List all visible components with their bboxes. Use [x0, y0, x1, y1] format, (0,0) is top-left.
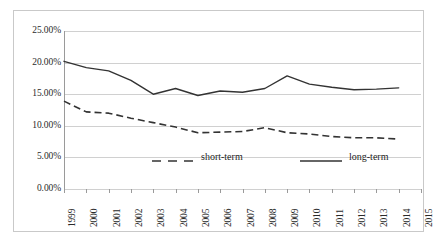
- y-axis-tick-label: 5.00%: [15, 152, 61, 162]
- x-axis-tick: [243, 189, 244, 193]
- chart-figure: 0.00%5.00%10.00%15.00%20.00%25.00% short…: [13, 10, 424, 232]
- x-axis-tick: [176, 189, 177, 193]
- legend-label: long-term: [349, 152, 388, 162]
- legend-swatch-icon: [300, 152, 342, 162]
- x-axis-tick-label: 1999: [68, 209, 78, 227]
- x-axis-tick: [109, 189, 110, 193]
- x-axis-tick-label: 2009: [291, 209, 301, 227]
- x-axis-tick-label: 2002: [135, 209, 145, 227]
- x-axis-tick: [153, 189, 154, 193]
- x-axis-tick-label: 2010: [313, 209, 323, 227]
- x-axis-tick-label: 2014: [403, 209, 413, 227]
- legend-label: short-term: [201, 152, 243, 162]
- x-axis-tick-label: 2004: [180, 209, 190, 227]
- x-axis-tick-label: 2013: [380, 209, 390, 227]
- x-axis-tick-label: 2005: [202, 209, 212, 227]
- x-axis-tick-label: 2012: [358, 209, 368, 227]
- x-axis-tick-label: 2006: [224, 209, 234, 227]
- x-axis-ticks: [64, 189, 421, 194]
- x-axis-tick: [376, 189, 377, 193]
- y-axis-tick-label: 25.00%: [15, 26, 61, 36]
- legend-entry-short-term[interactable]: short-term: [152, 149, 243, 165]
- x-axis-tick: [131, 189, 132, 193]
- x-axis-tick-label: 2015: [425, 209, 435, 227]
- x-axis-tick-label: 2011: [336, 209, 346, 227]
- x-axis-tick: [354, 189, 355, 193]
- y-axis-tick-label: 0.00%: [15, 184, 61, 194]
- series-line-long-term: [64, 61, 399, 95]
- series-line-short-term: [64, 101, 399, 139]
- x-axis-tick-label: 2001: [113, 209, 123, 227]
- x-axis-tick-label: 2007: [247, 209, 257, 227]
- x-axis-tick: [198, 189, 199, 193]
- x-axis-tick: [332, 189, 333, 193]
- x-axis-tick-label: 2008: [269, 209, 279, 227]
- x-axis-tick: [64, 189, 65, 193]
- x-axis-tick: [309, 189, 310, 193]
- x-axis-tick-label: 2003: [157, 209, 167, 227]
- x-axis-tick: [220, 189, 221, 193]
- x-axis-tick: [287, 189, 288, 193]
- y-axis-tick-label: 10.00%: [15, 121, 61, 131]
- chart-legend: short-termlong-term: [64, 149, 421, 169]
- x-axis-tick-labels: 1999200020012002200320042005200620072008…: [64, 195, 421, 235]
- y-axis-tick-label: 20.00%: [15, 58, 61, 68]
- x-axis-tick: [399, 189, 400, 193]
- x-axis-tick: [86, 189, 87, 193]
- legend-entry-long-term[interactable]: long-term: [300, 149, 388, 165]
- x-axis-tick: [421, 189, 422, 193]
- legend-swatch-icon: [152, 152, 194, 162]
- y-axis-tick-labels: 0.00%5.00%10.00%15.00%20.00%25.00%: [14, 31, 61, 189]
- x-axis-tick-label: 2000: [90, 209, 100, 227]
- y-axis-tick-label: 15.00%: [15, 89, 61, 99]
- x-axis-tick: [265, 189, 266, 193]
